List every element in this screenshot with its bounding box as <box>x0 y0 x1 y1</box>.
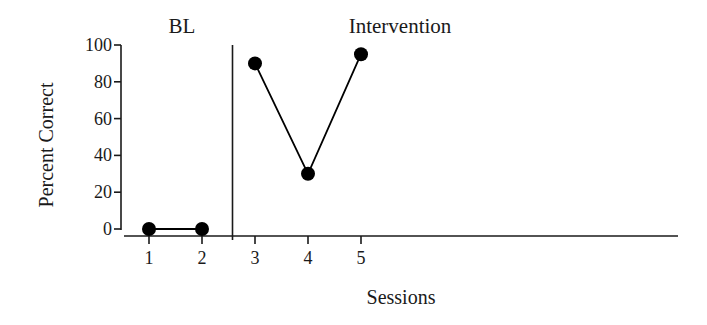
data-point <box>195 222 209 236</box>
single-case-design-chart: 020406080100 12345 BL Intervention Sessi… <box>0 0 707 325</box>
x-ticks: 12345 <box>145 236 366 268</box>
y-tick-label: 100 <box>85 35 112 55</box>
y-tick-label: 40 <box>94 145 112 165</box>
x-tick-label: 2 <box>198 248 207 268</box>
series-line <box>255 54 361 174</box>
y-tick-label: 20 <box>94 182 112 202</box>
phase-label-bl: BL <box>169 14 196 38</box>
y-tick-label: 60 <box>94 109 112 129</box>
chart-canvas: 020406080100 12345 BL Intervention Sessi… <box>0 0 707 325</box>
x-axis-label: Sessions <box>367 286 436 308</box>
data-points <box>142 47 368 236</box>
data-point <box>142 222 156 236</box>
y-tick-label: 0 <box>103 219 112 239</box>
data-lines <box>149 54 361 229</box>
data-point <box>354 47 368 61</box>
y-axis-label: Percent Correct <box>35 82 57 207</box>
x-tick-label: 3 <box>251 248 260 268</box>
y-ticks: 020406080100 <box>85 35 121 239</box>
data-point <box>301 167 315 181</box>
x-tick-label: 5 <box>357 248 366 268</box>
x-tick-label: 4 <box>304 248 313 268</box>
y-tick-label: 80 <box>94 72 112 92</box>
x-tick-label: 1 <box>145 248 154 268</box>
phase-label-intervention: Intervention <box>349 14 452 38</box>
data-point <box>248 56 262 70</box>
